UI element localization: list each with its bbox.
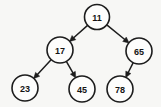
edge-line	[38, 60, 51, 74]
edge-line	[74, 26, 87, 38]
node-label: 17	[55, 46, 65, 56]
tree-node-23[interactable]: 23	[12, 75, 38, 101]
tree-edge-n11-to-n65	[107, 25, 129, 43]
node-label: 78	[115, 85, 125, 95]
tree-node-65[interactable]: 65	[126, 38, 152, 64]
tree-edge-n11-to-n17	[69, 26, 87, 42]
edge-line	[128, 63, 133, 72]
node-label: 23	[20, 84, 30, 94]
tree-node-17[interactable]: 17	[47, 37, 73, 63]
node-label: 65	[134, 47, 144, 57]
tree-node-78[interactable]: 78	[107, 76, 133, 102]
tree-edge-n65-to-n78	[126, 63, 133, 78]
tree-node-45[interactable]: 45	[69, 76, 95, 102]
tree-edge-n17-to-n45	[67, 62, 76, 78]
edge-line	[107, 25, 124, 39]
tree-edge-n17-to-n23	[33, 60, 50, 79]
edge-line	[67, 62, 73, 73]
tree-node-11[interactable]: 11	[85, 5, 110, 30]
binary-tree-diagram: 111765234578	[0, 0, 161, 107]
node-label: 11	[92, 13, 102, 23]
node-label: 45	[77, 85, 87, 95]
tree-svg-canvas: 111765234578	[0, 0, 161, 107]
